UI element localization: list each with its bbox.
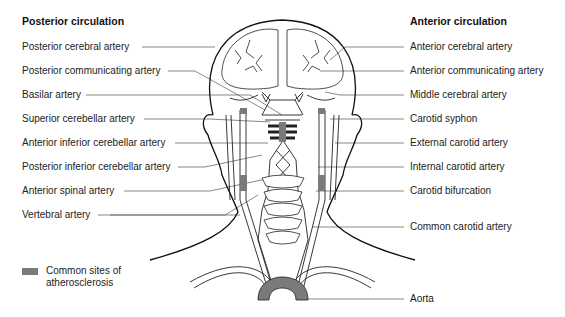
label-common-carotid-artery: Common carotid artery (410, 221, 512, 233)
label-vertebral-artery: Vertebral artery (22, 209, 90, 221)
label-aorta: Aorta (410, 293, 434, 305)
label-internal-carotid-artery: Internal carotid artery (410, 161, 505, 173)
anterior-circulation-heading: Anterior circulation (410, 15, 507, 27)
label-posterior-inferior-cerebellar-artery: Posterior inferior cerebellar artery (22, 161, 170, 173)
brain-hemispheres (222, 29, 343, 89)
label-basilar-artery: Basilar artery (22, 89, 81, 101)
cervical-vertebrae (262, 175, 304, 244)
legend: Common sites of atherosclerosis (22, 265, 121, 289)
right-bifurcation-plaque (318, 175, 325, 191)
label-anterior-inferior-cerebellar-artery: Anterior inferior cerebellar artery (22, 137, 165, 149)
label-superior-cerebellar-artery: Superior cerebellar artery (22, 113, 135, 125)
label-anterior-cerebral-artery: Anterior cerebral artery (410, 41, 512, 53)
label-carotid-syphon: Carotid syphon (410, 113, 477, 125)
right-leader-lines (300, 47, 404, 299)
legend-line-1: Common sites of (46, 265, 121, 277)
legend-swatch (22, 268, 38, 275)
basilar-plaque (279, 122, 286, 142)
label-carotid-bifurcation: Carotid bifurcation (410, 185, 491, 197)
label-middle-cerebral-artery: Middle cerebral artery (410, 89, 507, 101)
label-posterior-cerebral-artery: Posterior cerebral artery (22, 41, 129, 53)
left-syphon-plaque (240, 108, 247, 114)
label-posterior-communicating-artery: Posterior communicating artery (22, 65, 160, 77)
label-external-carotid-artery: External carotid artery (410, 137, 508, 149)
left-bifurcation-plaque (240, 175, 247, 191)
posterior-circulation-heading: Posterior circulation (22, 15, 124, 27)
label-anterior-communicating-artery: Anterior communicating artery (410, 65, 543, 77)
right-syphon-plaque (318, 108, 325, 114)
legend-line-2: atherosclerosis (46, 277, 121, 289)
label-anterior-spinal-artery: Anterior spinal artery (22, 185, 114, 197)
